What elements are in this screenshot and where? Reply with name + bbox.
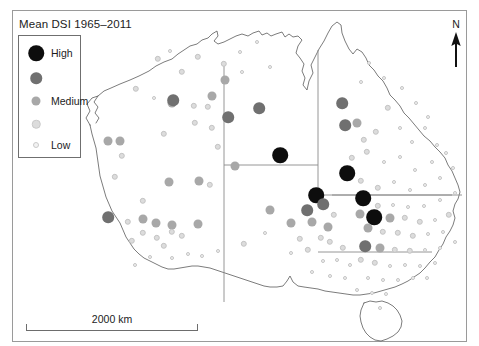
data-point xyxy=(359,240,371,252)
data-point xyxy=(102,211,114,223)
data-point xyxy=(194,220,203,229)
data-point xyxy=(339,165,355,181)
data-point xyxy=(453,191,457,195)
data-point xyxy=(263,231,267,235)
data-point xyxy=(353,119,362,128)
data-point xyxy=(392,180,396,184)
data-point xyxy=(240,70,244,74)
data-point xyxy=(366,209,382,225)
legend-swatch-class4 xyxy=(32,120,41,129)
legend-swatch-class2 xyxy=(30,72,42,84)
data-point xyxy=(200,254,204,258)
data-point xyxy=(426,115,430,119)
data-point xyxy=(328,274,332,278)
data-point xyxy=(301,204,313,216)
scale-bar: 2000 km xyxy=(26,313,198,335)
data-point xyxy=(430,160,434,164)
data-point xyxy=(376,244,385,253)
data-point xyxy=(418,264,422,268)
data-point xyxy=(186,252,190,256)
data-point xyxy=(355,288,359,292)
scale-bar-line xyxy=(26,330,198,331)
north-arrow-label: N xyxy=(443,18,469,30)
page-title: Mean DSI 1965–2011 xyxy=(19,18,132,30)
north-arrow-icon xyxy=(443,31,469,68)
data-point xyxy=(400,86,404,90)
data-point xyxy=(411,276,415,280)
legend-swatch-low xyxy=(33,142,39,148)
figure-canvas: Mean DSI 1965–2011 HighMediumLow N 2000 … xyxy=(0,0,479,346)
data-point xyxy=(339,119,351,131)
data-point xyxy=(438,246,442,250)
data-point xyxy=(386,214,395,223)
data-point xyxy=(165,178,174,187)
data-point xyxy=(348,263,352,267)
data-point xyxy=(423,248,427,252)
data-point xyxy=(195,177,204,186)
data-point xyxy=(381,278,385,282)
data-point xyxy=(406,205,410,209)
data-point xyxy=(272,147,288,163)
data-point xyxy=(413,168,417,172)
data-point xyxy=(287,219,296,228)
data-point xyxy=(116,137,125,146)
data-point xyxy=(378,306,382,310)
data-point xyxy=(310,270,314,274)
data-point xyxy=(438,176,442,180)
data-point xyxy=(367,61,371,65)
data-point xyxy=(317,198,329,210)
data-point xyxy=(370,291,374,295)
north-arrow: N xyxy=(443,18,469,68)
data-point xyxy=(324,223,333,232)
data-point xyxy=(168,49,172,53)
data-point xyxy=(441,230,445,234)
legend-label-high: High xyxy=(51,47,73,59)
data-point xyxy=(444,151,448,155)
data-point xyxy=(152,96,156,100)
data-point xyxy=(216,249,220,253)
data-point xyxy=(321,259,325,263)
data-point xyxy=(139,215,148,224)
data-point xyxy=(388,264,392,268)
data-point xyxy=(422,204,426,208)
scale-bar-tick-left xyxy=(26,324,27,331)
data-point xyxy=(221,76,230,85)
data-point xyxy=(408,188,412,192)
data-point xyxy=(355,190,371,206)
data-point xyxy=(238,50,242,54)
data-point xyxy=(208,92,217,101)
data-point xyxy=(391,203,395,207)
data-point xyxy=(336,97,348,109)
legend-swatch-high xyxy=(28,45,44,61)
data-point xyxy=(335,258,339,262)
data-point xyxy=(382,76,386,80)
data-point xyxy=(433,218,437,222)
data-point xyxy=(438,198,442,202)
data-point xyxy=(435,143,439,147)
scale-bar-tick-right xyxy=(197,324,198,331)
legend-box: HighMediumLow xyxy=(18,35,81,158)
coast-detail-west xyxy=(94,96,99,123)
data-point xyxy=(384,292,388,296)
data-point xyxy=(396,278,400,282)
data-point xyxy=(167,94,179,106)
data-point xyxy=(453,240,457,244)
data-point xyxy=(403,263,407,267)
data-point xyxy=(398,126,402,130)
legend-label-medium: Medium xyxy=(51,95,88,107)
data-point xyxy=(343,276,347,280)
data-point xyxy=(423,183,427,187)
data-point xyxy=(364,224,373,233)
data-point xyxy=(398,155,402,159)
data-point xyxy=(308,218,317,227)
legend-swatch-medium xyxy=(32,97,41,106)
data-point xyxy=(410,140,414,144)
data-point xyxy=(133,263,137,267)
data-point xyxy=(255,40,259,44)
data-point xyxy=(359,80,363,84)
data-point xyxy=(231,162,240,171)
data-point xyxy=(414,101,418,105)
data-point xyxy=(433,261,437,265)
data-point xyxy=(382,160,386,164)
data-point xyxy=(423,126,427,130)
